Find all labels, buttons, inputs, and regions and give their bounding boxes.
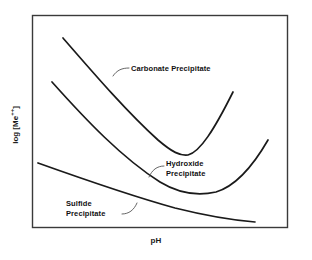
- solubility-diagram-figure: Carbonate Precipitate Hydroxide Precipit…: [0, 0, 312, 260]
- plot-canvas: [0, 0, 312, 260]
- annotation-hydroxide-precipitate: Hydroxide Precipitate: [166, 159, 205, 178]
- annotation-carbonate-precipitate: Carbonate Precipitate: [131, 64, 211, 74]
- y-axis-label: log [Me++]: [11, 106, 20, 144]
- y-axis-label-base: log [Me: [11, 116, 20, 144]
- y-axis-label-tail: ]: [11, 106, 20, 109]
- annotation-sulfide-precipitate: Sulfide Precipitate: [66, 199, 105, 218]
- x-axis-label: pH: [0, 236, 312, 245]
- y-axis-label-superscript: ++: [9, 109, 15, 116]
- y-axis-label-container: log [Me++]: [6, 80, 24, 170]
